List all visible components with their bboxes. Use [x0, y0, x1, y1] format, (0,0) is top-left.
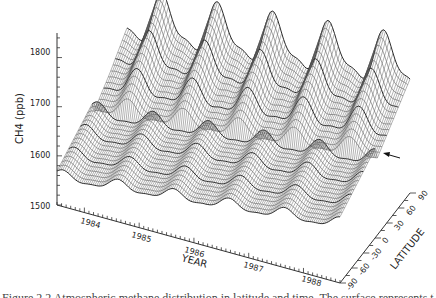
- surface-latitude-line: [125, 0, 408, 85]
- wireframe-surface: [57, 0, 410, 224]
- figure-caption: Figure 2.2 Atmospheric methane distribut…: [2, 289, 434, 298]
- z-tick-label-1500: 1500: [30, 202, 50, 211]
- x-tick-label-1988: 1988: [300, 274, 322, 288]
- y-axis-title: LATITUDE: [388, 226, 426, 271]
- surface-latitude-line: [87, 111, 370, 169]
- y-tick-label-m30: -30: [368, 246, 383, 262]
- y-tick-label-m60: -60: [356, 261, 371, 277]
- surface-time-line: [106, 30, 176, 185]
- z-tick-label-1600: 1600: [30, 151, 50, 160]
- surface-chart: 1800 1700 1600 1500 CH4 (ppb) 1984 1985 …: [0, 0, 436, 298]
- x-tick-label-1985: 1985: [130, 230, 152, 244]
- y-tick-label-30: 30: [392, 219, 405, 233]
- surface-time-line: [83, 11, 153, 184]
- y-axis-ticks: [340, 193, 416, 283]
- y-tick-label-90: 90: [416, 189, 429, 203]
- y-tick-label-60: 60: [404, 204, 417, 218]
- arrow-head: [383, 152, 390, 157]
- surface-time-line: [95, 0, 165, 185]
- surface-latitude-line: [120, 15, 403, 96]
- z-tick-label-1800: 1800: [30, 48, 50, 57]
- z-tick-label-1700: 1700: [30, 99, 50, 108]
- arrow-annotation: [383, 152, 400, 158]
- surface-time-line: [327, 64, 397, 222]
- y-tick-label-0: 0: [380, 236, 390, 246]
- surface-time-line: [89, 0, 159, 184]
- x-tick-label-1987: 1987: [242, 260, 264, 274]
- z-axis-title: CH4 (ppb): [14, 93, 25, 144]
- x-tick-label-1984: 1984: [79, 216, 101, 230]
- z-axis-ticks: [57, 38, 62, 205]
- surface-time-line: [63, 32, 133, 170]
